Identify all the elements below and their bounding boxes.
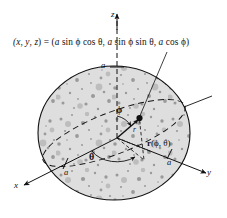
sphere-body: [38, 66, 190, 200]
radius-label-y: a: [167, 158, 171, 167]
equator-axis-extension: [184, 96, 212, 107]
radius-label-x: a: [64, 168, 68, 177]
vector-args: (ϕ, θ): [151, 138, 171, 148]
sphere-outline: [38, 66, 190, 200]
y-axis-label: y: [207, 168, 211, 177]
position-vector-label: r(ϕ, θ): [147, 139, 171, 148]
z-axis-label: z: [111, 10, 115, 19]
theta-angle-label: θ: [89, 152, 94, 162]
phi-angle-label: ϕ: [116, 105, 122, 115]
radius-label-z: a: [101, 61, 105, 70]
equator-extension-line: [184, 96, 212, 107]
x-axis-label: x: [14, 181, 18, 190]
parameterization-equation: (x, y, z) = (a sin ϕ cos θ, a sin ϕ sin …: [13, 38, 189, 47]
spherical-coordinates-figure: (x, y, z) = (a sin ϕ cos θ, a sin ϕ sin …: [0, 0, 227, 218]
vector-short-label: r: [133, 126, 136, 134]
figure-canvas: [0, 0, 227, 218]
